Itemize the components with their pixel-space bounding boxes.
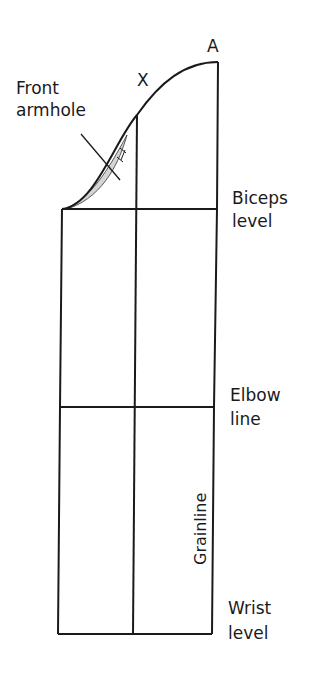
sleeve-right-edge (212, 62, 218, 634)
sleeve-left-edge (58, 209, 62, 634)
biceps-label-line1: Biceps (232, 188, 288, 208)
grainline-label: Grainline (191, 493, 210, 565)
wrist-label-line1: Wrist (228, 598, 271, 618)
elbow-label-line1: Elbow (230, 385, 281, 405)
front-armhole-label-line1: Front (16, 78, 59, 98)
point-a-label: A (207, 36, 219, 56)
elbow-label-line2: line (230, 409, 261, 429)
front-armhole-label-line2: armhole (16, 100, 86, 120)
center-line (133, 115, 137, 634)
wrist-label-line2: level (228, 623, 268, 643)
biceps-label-line2: level (232, 211, 272, 231)
point-x-label: X (137, 70, 149, 90)
